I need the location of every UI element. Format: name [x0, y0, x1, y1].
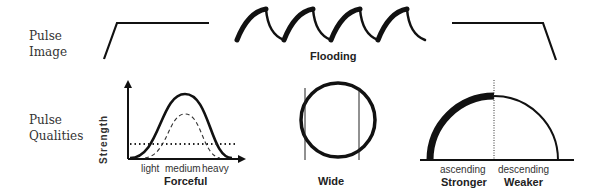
forceful-title: Forceful: [164, 175, 207, 187]
strength-axis-label: Strength: [98, 115, 109, 164]
ascending-label: ascending: [440, 164, 486, 175]
descending-arc: [494, 96, 558, 160]
tick-medium: medium: [165, 163, 201, 174]
flooding-title: Flooding: [310, 50, 356, 62]
x-axis-arrow-icon: [238, 155, 246, 163]
descending-label: descending: [498, 164, 549, 175]
tick-light: light: [141, 163, 159, 174]
stronger-weaker-diagram: [420, 80, 574, 160]
weaker-title: Weaker: [504, 176, 543, 188]
pulse-image-rising-line: [104, 23, 209, 59]
wide-circle: [301, 83, 375, 157]
y-axis-arrow-icon: [124, 80, 132, 88]
stronger-title: Stronger: [441, 176, 487, 188]
forceful-curve: [130, 94, 232, 158]
wide-title: Wide: [318, 175, 344, 187]
tick-heavy: heavy: [202, 163, 229, 174]
flooding-waveform: [237, 9, 425, 40]
ascending-arc: [430, 96, 494, 160]
wide-diagram: [301, 83, 375, 160]
forceful-chart: [124, 80, 246, 163]
pulse-image-falling-line: [452, 23, 556, 60]
